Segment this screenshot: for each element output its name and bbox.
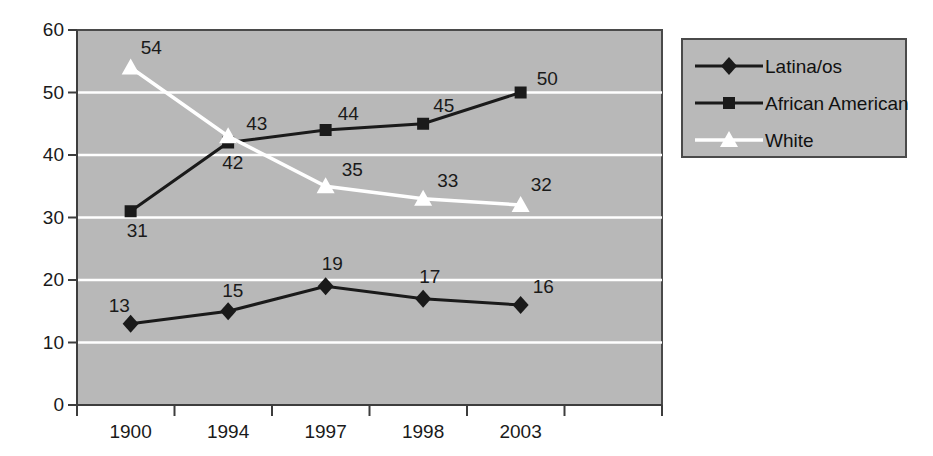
square-marker [515,87,527,99]
data-label: 19 [322,254,343,273]
legend-item[interactable]: Latina/os [683,46,905,86]
x-axis-labels: 19001994199719982003 [0,412,700,446]
legend-diamond-key-icon [693,54,765,78]
x-tick-label: 1900 [96,422,166,441]
diamond-marker [721,57,737,75]
data-label: 31 [127,221,148,240]
y-tick-label: 10 [18,333,64,352]
data-label: 44 [338,104,359,123]
y-tick-label: 50 [18,83,64,102]
data-label: 43 [246,114,267,133]
data-label: 33 [437,171,458,190]
data-label: 15 [222,281,243,300]
y-tick-label: 60 [18,20,64,39]
square-marker [320,124,332,136]
data-label: 54 [141,38,162,57]
square-marker [417,118,429,130]
square-marker [723,97,735,109]
legend-item-label: White [765,131,814,150]
y-tick-label: 30 [18,208,64,227]
legend-triangle-key-icon [693,128,765,152]
legend-item-label: African American [765,94,909,113]
legend-square-key-icon [693,91,765,115]
data-label: 32 [531,175,552,194]
y-axis [68,30,77,405]
chart-legend: Latina/osAfrican AmericanWhite [681,38,907,158]
data-label: 42 [222,153,243,172]
data-label: 35 [342,160,363,179]
x-tick-label: 1997 [291,422,361,441]
data-label: 13 [109,296,130,315]
y-tick-label: 20 [18,270,64,289]
legend-item[interactable]: African American [683,83,905,123]
x-tick-label: 1998 [388,422,458,441]
square-marker [125,205,137,217]
data-label: 16 [533,277,554,296]
x-tick-label: 1994 [193,422,263,441]
y-axis-labels: 6050403020100 [0,0,64,456]
y-tick-label: 40 [18,145,64,164]
x-tick-label: 2003 [486,422,556,441]
data-label: 50 [537,69,558,88]
legend-item-label: Latina/os [765,57,842,76]
line-chart: 6050403020100 19001994199719982003 13151… [0,0,933,456]
legend-item[interactable]: White [683,120,905,160]
data-label: 45 [433,96,454,115]
data-label: 17 [419,267,440,286]
